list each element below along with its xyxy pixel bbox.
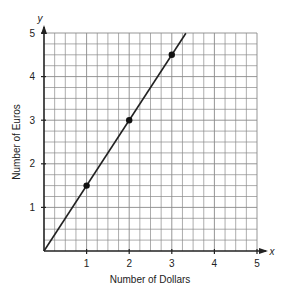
x-axis-label: Number of Dollars (110, 274, 191, 285)
y-tick-label: 1 (29, 202, 35, 213)
grid (44, 33, 257, 251)
chart: 1234512345 y x Number of Dollars Number … (0, 0, 292, 302)
data-point (83, 182, 89, 188)
y-tick-label: 5 (29, 28, 35, 39)
x-tick-label: 3 (169, 258, 175, 269)
x-tick-label: 1 (84, 258, 90, 269)
x-axis-arrow-icon (259, 248, 268, 254)
axis-ticks: 1234512345 (29, 28, 260, 270)
data-point (169, 52, 175, 58)
axes (41, 25, 268, 254)
x-axis-variable: x (269, 246, 276, 257)
y-tick-label: 3 (29, 115, 35, 126)
x-tick-label: 2 (126, 258, 132, 269)
y-axis-variable: y (37, 13, 44, 24)
x-tick-label: 5 (254, 258, 260, 269)
y-axis-label: Number of Euros (11, 104, 22, 180)
y-tick-label: 4 (29, 71, 35, 82)
y-tick-label: 2 (29, 158, 35, 169)
data-point (126, 117, 132, 123)
x-tick-label: 4 (212, 258, 218, 269)
